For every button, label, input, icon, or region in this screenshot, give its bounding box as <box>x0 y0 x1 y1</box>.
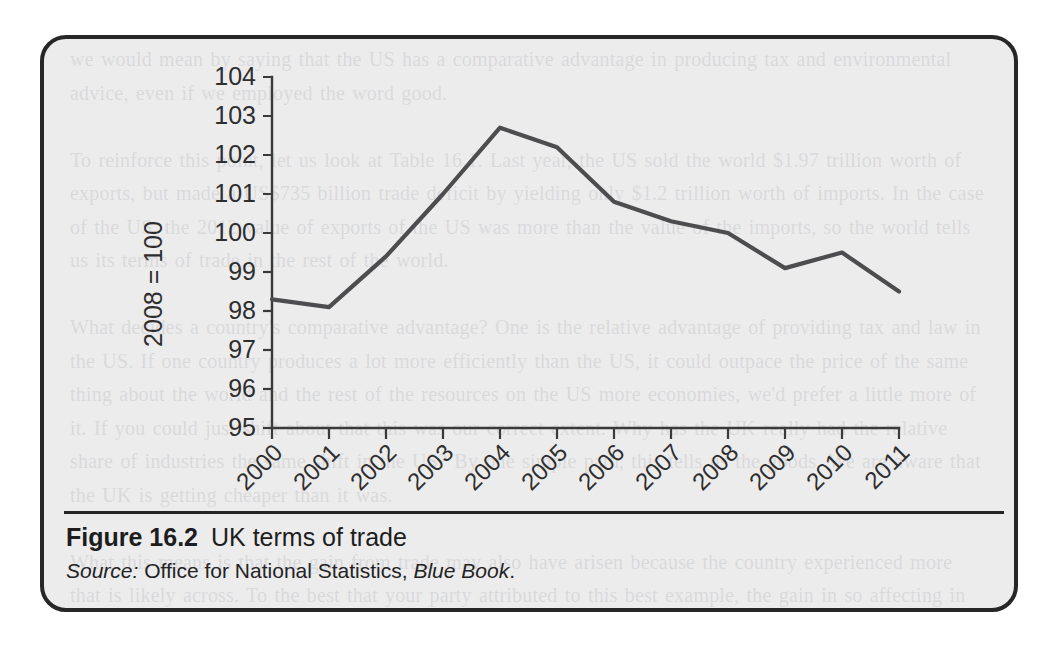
x-tick-label: 2000 <box>231 438 288 495</box>
source-body: Office for National Statistics, <box>138 559 413 582</box>
x-tick-label: 2002 <box>345 438 402 495</box>
x-tick-label: 2006 <box>573 438 630 495</box>
y-tick-label: 101 <box>214 179 256 207</box>
y-tick-label: 95 <box>228 413 256 441</box>
y-tick-label: 96 <box>228 374 256 402</box>
figure-title-text: UK terms of trade <box>211 523 407 551</box>
caption-block: Figure 16.2UK terms of trade Source: Off… <box>66 523 996 583</box>
figure-number: Figure 16.2 <box>66 523 198 551</box>
x-tick-label: 2011 <box>859 438 915 494</box>
y-tick-label: 99 <box>228 257 256 285</box>
x-tick-label: 2004 <box>459 438 516 495</box>
caption-divider <box>64 511 1004 514</box>
figure-source: Source: Office for National Statistics, … <box>66 559 996 583</box>
y-tick-label: 102 <box>214 140 256 168</box>
source-prefix: Source: <box>66 559 138 582</box>
x-tick-label: 2005 <box>516 438 573 495</box>
x-tick-label: 2009 <box>744 438 801 495</box>
x-tick-label: 2008 <box>687 438 744 495</box>
figure-title: Figure 16.2UK terms of trade <box>66 523 996 552</box>
x-tick-label: 2001 <box>288 438 345 495</box>
y-axis-ticks: 9596979899100101102103104 <box>214 62 272 441</box>
y-tick-label: 104 <box>214 62 256 90</box>
x-tick-label: 2007 <box>630 438 687 495</box>
y-tick-label: 98 <box>228 296 256 324</box>
x-axis-ticks: 2000200120022003200420052006200720082009… <box>231 428 915 495</box>
x-tick-label: 2010 <box>801 438 858 495</box>
x-tick-label: 2003 <box>402 438 459 495</box>
y-axis-title: 2008 = 100 <box>139 221 167 347</box>
y-tick-label: 103 <box>214 101 256 129</box>
y-tick-label: 97 <box>228 335 256 363</box>
data-series-line <box>272 128 899 307</box>
y-tick-label: 100 <box>214 218 256 246</box>
source-suffix: . <box>509 559 515 582</box>
figure-frame: we would mean by saying that the US has … <box>40 35 1018 612</box>
source-publication: Blue Book <box>413 559 509 582</box>
